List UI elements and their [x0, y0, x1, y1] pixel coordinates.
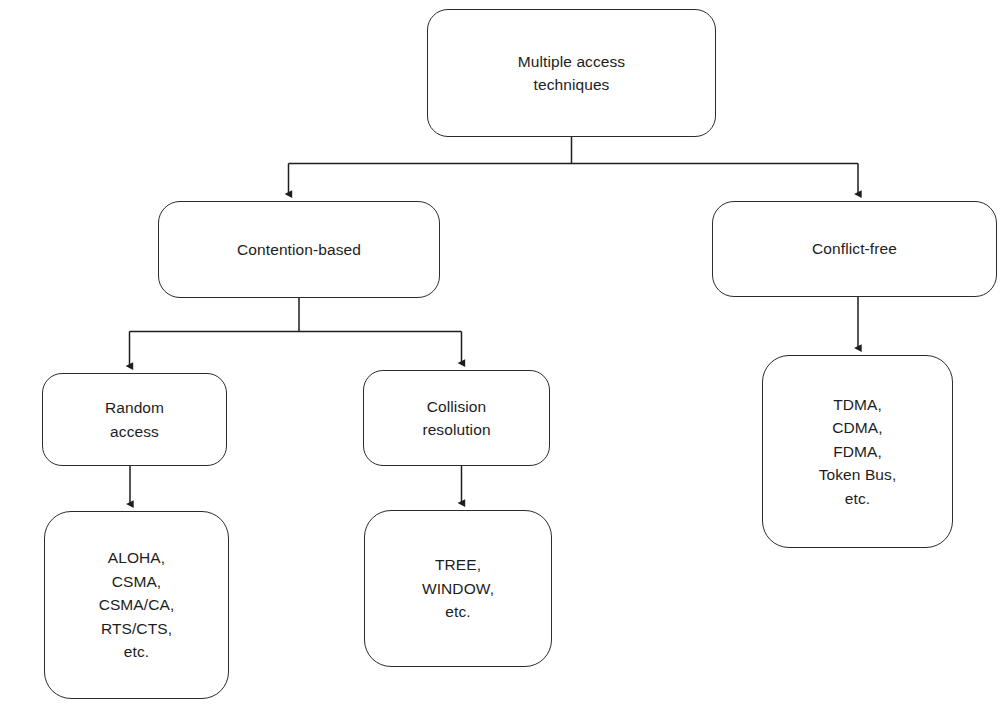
node-contention-based: Contention-based: [158, 201, 440, 298]
node-collision-resolution-examples: TREE, WINDOW, etc.: [364, 510, 552, 667]
node-multiple-access-techniques: Multiple access techniques: [427, 9, 716, 137]
node-random-access-examples: ALOHA, CSMA, CSMA/CA, RTS/CTS, etc.: [44, 511, 229, 699]
node-conflict-free: Conflict-free: [712, 201, 997, 297]
node-random-access: Random access: [42, 373, 227, 466]
node-collision-resolution: Collision resolution: [363, 370, 550, 466]
node-conflict-free-examples: TDMA, CDMA, FDMA, Token Bus, etc.: [762, 355, 953, 548]
diagram-canvas: Multiple access techniques Contention-ba…: [0, 0, 1003, 715]
